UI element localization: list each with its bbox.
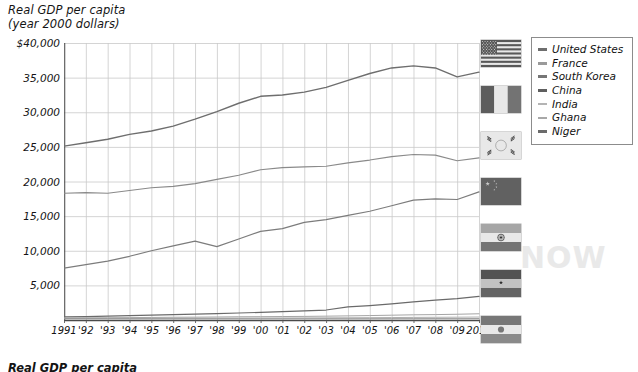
legend-item-label: South Korea — [552, 70, 616, 83]
x-tick-label: 1991 — [51, 325, 76, 336]
watermark: NOW — [520, 240, 638, 286]
x-tick-label: '94 — [122, 325, 137, 336]
y-tick-label: 20,000 — [2, 176, 60, 188]
series-line-south-korea — [64, 192, 479, 268]
united-states-flag — [481, 40, 521, 67]
x-tick-label: '93 — [100, 325, 115, 336]
france-flag — [481, 86, 521, 113]
x-tick-label: '96 — [165, 325, 180, 336]
legend-item-china[interactable]: China — [532, 84, 632, 98]
legend-dash-icon — [538, 130, 547, 133]
x-tick-label: '06 — [384, 325, 399, 336]
legend-item-label: India — [552, 98, 578, 111]
legend-dash-icon — [538, 75, 547, 78]
legend-dash-icon — [538, 117, 547, 119]
legend-item-niger[interactable]: Niger — [532, 125, 632, 139]
gridlines — [64, 43, 480, 320]
y-tick-label: 25,000 — [2, 141, 60, 153]
x-tick-label: '09 — [449, 325, 464, 336]
x-tick-label: '05 — [362, 325, 377, 336]
x-tick-label: '98 — [209, 325, 224, 336]
india-flag — [481, 224, 521, 251]
legend-dash-icon — [538, 48, 547, 51]
x-tick-label: '07 — [406, 325, 421, 336]
x-axis-labels: 1991'92'93'94'95'96'97'98'99'00'01'02'03… — [64, 325, 479, 341]
y-tick-label: 35,000 — [2, 72, 60, 84]
flag-column — [481, 36, 525, 326]
legend-dash-icon — [538, 89, 547, 92]
chart-title: Real GDP per capita (year 2000 dollars) — [8, 4, 125, 31]
legend-item-ghana[interactable]: Ghana — [532, 111, 632, 125]
plot-svg — [64, 43, 481, 323]
china-flag — [481, 178, 521, 205]
y-tick-label: 30,000 — [2, 106, 60, 118]
x-tick-label: '01 — [275, 325, 290, 336]
x-tick-label: '08 — [428, 325, 443, 336]
legend-item-label: Niger — [552, 125, 580, 138]
legend-item-label: France — [552, 57, 588, 70]
x-tick-label: '00 — [253, 325, 268, 336]
x-tick-label: '03 — [318, 325, 333, 336]
niger-flag — [481, 316, 521, 343]
chart-legend: United StatesFranceSouth KoreaChinaIndia… — [531, 37, 633, 145]
y-tick-label: 15,000 — [2, 210, 60, 222]
x-tick-label: '02 — [297, 325, 312, 336]
legend-dash-icon — [538, 103, 547, 105]
legend-item-label: China — [552, 84, 582, 97]
x-tick-label: '95 — [144, 325, 159, 336]
legend-item-india[interactable]: India — [532, 97, 632, 111]
y-tick-label: 5,000 — [2, 279, 60, 291]
series-line-china — [64, 296, 479, 316]
y-tick-label: 10,000 — [2, 245, 60, 257]
footer-title: Real GDP per capita — [8, 361, 137, 372]
x-tick-label: '99 — [231, 325, 246, 336]
legend-item-france[interactable]: France — [532, 57, 632, 71]
legend-item-united-states[interactable]: United States — [532, 43, 632, 57]
legend-dash-icon — [538, 62, 547, 64]
legend-item-south-korea[interactable]: South Korea — [532, 70, 632, 84]
x-tick-label: '97 — [187, 325, 202, 336]
x-tick-label: '04 — [340, 325, 355, 336]
y-tick-label: $40,000 — [2, 37, 60, 49]
x-tick-label: '92 — [78, 325, 93, 336]
south-korea-flag — [481, 132, 521, 159]
chart-figure: Real GDP per capita (year 2000 dollars) … — [0, 0, 638, 372]
series-line-france — [64, 154, 479, 193]
y-axis-labels: $40,00035,00030,00025,00020,00015,00010,… — [0, 43, 60, 320]
series-group — [64, 66, 479, 319]
plot-area — [64, 43, 479, 320]
legend-item-label: Ghana — [552, 111, 586, 124]
legend-item-label: United States — [552, 43, 623, 56]
ghana-flag — [481, 270, 521, 297]
